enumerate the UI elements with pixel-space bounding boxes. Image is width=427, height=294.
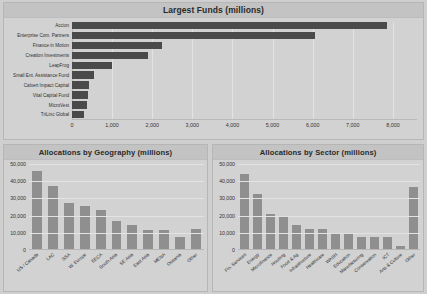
funds-bar-row[interactable]: Accion [4,21,417,30]
funds-bar-label: TriLinc Global [4,110,72,119]
funds-bar-label: Enterprise Com. Partners [4,31,72,40]
gridline [29,198,204,199]
y-tick-label: 40,000 [219,178,235,184]
funds-bar[interactable] [72,62,112,70]
funds-bar-row[interactable]: Vital Capital Fund [4,91,417,100]
x-label-cell: US / Canada [29,252,45,290]
funds-bar[interactable] [72,111,84,119]
funds-x-axis-ticks: 01,0002,0003,0004,0005,0006,0007,0008,00… [4,122,423,134]
funds-bar-row[interactable]: Finance in Motion [4,41,417,50]
funds-bar-track [72,81,417,90]
bar-cell [29,164,45,249]
funds-x-tick-label: 7,000 [346,122,360,128]
sector-y-axis-ticks: 010,00020,00030,00040,00050,000 [213,164,237,250]
bar[interactable] [32,171,42,249]
bar[interactable] [80,206,90,249]
panel-title-sector: Allocations by Sector (millions) [260,148,377,157]
bar[interactable] [64,203,74,249]
panel-header-sector: Allocations by Sector (millions) [213,145,423,160]
gridline [29,164,204,165]
chart-largest-funds: AccionEnterprise Com. PartnersFinance in… [4,18,423,139]
funds-bar-track [72,51,417,60]
sector-x-axis-labels: Fin. ServicesEnergyMicrofinanceHousingFo… [238,252,420,290]
y-tick-label: 0 [23,247,26,253]
funds-bar[interactable] [72,42,162,50]
funds-bar[interactable] [72,71,94,79]
funds-bar-label: Accion [4,21,72,30]
dashboard-page: Largest Funds (millions) AccionEnterpris… [0,0,427,294]
bar-cell [156,164,172,249]
funds-x-tick-label: 1,000 [105,122,119,128]
x-label-cell: Other [188,252,204,290]
panel-allocations-by-geography: Allocations by Geography (millions) 010,… [3,144,208,292]
funds-bar-track [72,71,417,80]
funds-x-tick-label: 6,000 [306,122,320,128]
x-label-cell: MENA [156,252,172,290]
y-tick-label: 30,000 [10,195,26,201]
funds-bar-track [72,21,417,30]
panel-header-largest-funds: Largest Funds (millions) [4,3,423,18]
funds-bar[interactable] [72,81,89,89]
bar-cell [124,164,140,249]
funds-bar-track [72,31,417,40]
panel-title-largest-funds: Largest Funds (millions) [163,5,264,15]
bar-cell [61,164,77,249]
funds-bar-label: LeapFrog [4,61,72,70]
gridline [29,233,204,234]
bar-cell [140,164,156,249]
panel-allocations-by-sector: Allocations by Sector (millions) 010,000… [212,144,424,292]
funds-bar[interactable] [72,101,87,109]
y-tick-label: 0 [232,247,235,253]
funds-x-tick-label: 0 [71,122,74,128]
funds-bar-track [72,110,417,119]
funds-bar-track [72,91,417,100]
panel-largest-funds: Largest Funds (millions) AccionEnterpris… [3,2,424,140]
panel-title-geography: Allocations by Geography (millions) [39,148,172,157]
funds-bar[interactable] [72,52,148,60]
funds-bar[interactable] [72,32,315,40]
bar-cell [77,164,93,249]
bar[interactable] [240,174,248,249]
funds-bar-track [72,61,417,70]
gridline [29,181,204,182]
y-tick-label: 10,000 [219,230,235,236]
gridline [238,181,420,182]
funds-bar-row[interactable]: Calvert Impact Capital [4,81,417,90]
funds-bar-row[interactable]: LeapFrog [4,61,417,70]
y-tick-label: 10,000 [10,230,26,236]
y-tick-label: 50,000 [219,161,235,167]
bar-cell [303,164,316,249]
funds-bar-label: Calvert Impact Capital [4,81,72,90]
funds-x-tick-label: 3,000 [186,122,200,128]
bar-cell [342,164,355,249]
chart-allocations-by-geography: 010,00020,00030,00040,00050,000 US / Can… [4,160,207,291]
y-tick-label: 30,000 [219,195,235,201]
x-label-cell: SSA [61,252,77,290]
funds-bar-row[interactable]: Enterprise Com. Partners [4,31,417,40]
x-label-cell: W. Europe [77,252,93,290]
funds-bar-track [72,101,417,110]
funds-x-tick-label: 2,000 [145,122,159,128]
gridline [238,198,420,199]
funds-bar[interactable] [72,22,387,30]
y-tick-label: 20,000 [219,213,235,219]
bar-cell [290,164,303,249]
gridline [238,216,420,217]
funds-bar-track [72,41,417,50]
x-label-cell: LAC [45,252,61,290]
bar-cell [172,164,188,249]
panel-header-geography: Allocations by Geography (millions) [4,145,207,160]
funds-bar-row[interactable]: MicroVest [4,101,417,110]
funds-bar-rows: AccionEnterprise Com. PartnersFinance in… [4,21,423,120]
chart-allocations-by-sector: 010,00020,00030,00040,00050,000 Fin. Ser… [213,160,423,291]
funds-bar[interactable] [72,91,88,99]
bar-cell [355,164,368,249]
funds-bar-row[interactable]: Small Ent. Assistance Fund [4,71,417,80]
funds-bar-row[interactable]: Creation Investments [4,51,417,60]
funds-x-tick-label: 8,000 [386,122,400,128]
funds-x-tick-label: 4,000 [226,122,240,128]
funds-bar-row[interactable]: TriLinc Global [4,110,417,119]
funds-bar-label: MicroVest [4,101,72,110]
y-tick-label: 40,000 [10,178,26,184]
bar[interactable] [112,221,122,249]
